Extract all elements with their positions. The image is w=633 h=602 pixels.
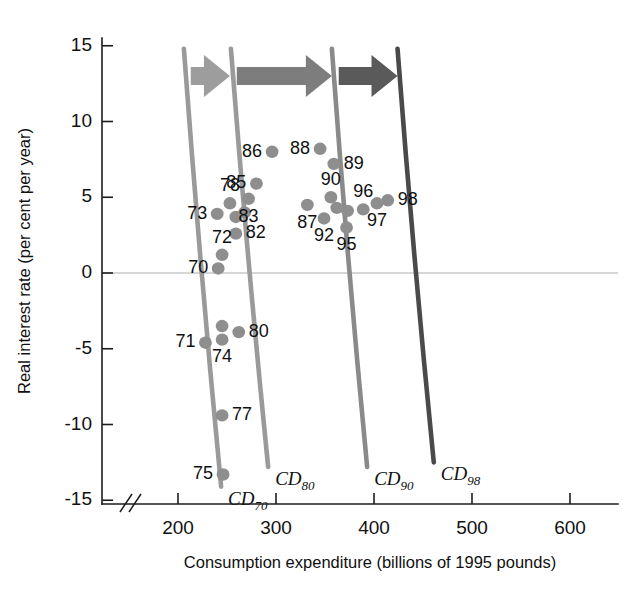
x-tick-label-600: 600 [554,517,586,538]
point-label-70: 70 [188,257,208,277]
point-label-74: 74 [212,346,232,366]
curve-cd90 [332,49,367,467]
data-point-75 [217,468,230,480]
y-tick-label-0: 0 [81,261,92,282]
data-point [341,205,354,217]
arrow-shift-90-to-98 [339,55,398,97]
chart-canvas: 7072737882838586888990879295969798717480… [0,0,633,602]
data-point-70 [212,262,225,274]
point-label-80: 80 [249,321,269,341]
point-label-72: 72 [212,227,232,247]
curve-label-cd80: CD80 [275,468,315,493]
x-tick-label-200: 200 [162,517,194,538]
point-label-98: 98 [398,189,418,209]
data-point-73 [211,208,224,220]
data-point-88 [314,143,327,155]
y-tick-label-5: 5 [81,185,92,206]
curve-cd98 [398,49,434,463]
data-point-90 [324,191,337,203]
chart-figure: 7072737882838586888990879295969798717480… [0,0,633,602]
x-tick-label-300: 300 [260,517,292,538]
point-label-90: 90 [321,169,341,189]
data-point-77 [216,409,229,421]
point-label-73: 73 [187,203,207,223]
data-point [330,202,343,214]
y-tick-label--5: -5 [75,337,92,358]
data-point-72 [216,249,229,261]
curve-labels-group: CD70CD80CD90CD98 [228,463,481,512]
point-label-97: 97 [367,210,387,230]
data-point-83 [242,193,255,205]
point-label-92: 92 [314,225,334,245]
data-point-92 [318,212,331,224]
data-point-87 [301,199,314,211]
y-tick-label-10: 10 [71,110,92,131]
y-axis-title: Real interest rate (per cent per year) [15,128,33,394]
data-point-95 [340,221,353,233]
y-tick-label--15: -15 [65,488,92,509]
curve-label-cd70: CD70 [228,488,268,513]
data-point-labels-group: 7072737882838586888990879295969798717480… [175,138,417,484]
point-label-95: 95 [337,234,357,254]
point-label-71: 71 [175,331,195,351]
y-tick-label-15: 15 [71,34,92,55]
tick-labels-group: 151050-5-10-15200300400500600 [65,34,586,538]
data-point-85 [250,177,263,189]
x-axis-title: Consumption expenditure (billions of 199… [184,553,556,571]
data-point-71 [199,336,212,348]
x-tick-label-500: 500 [456,517,488,538]
x-tick-label-400: 400 [358,517,390,538]
point-label-83: 83 [239,206,259,226]
point-label-86: 86 [242,141,262,161]
data-point-80 [232,326,245,338]
curve-label-cd98: CD98 [441,463,481,488]
point-label-85: 85 [226,172,246,192]
data-point-74 [216,333,229,345]
point-label-75: 75 [193,463,213,483]
data-point-86 [266,146,279,158]
y-tick-label--10: -10 [65,413,92,434]
data-point [216,320,229,332]
data-point-78 [224,197,237,209]
arrow-shift-70-to-80 [191,55,230,97]
shift-arrows-group [191,55,398,97]
point-label-89: 89 [344,153,364,173]
curve-label-cd90: CD90 [374,468,414,493]
arrow-shift-80-to-90 [237,55,332,97]
axes-group [102,38,618,512]
data-point-98 [381,194,394,206]
point-label-77: 77 [232,404,252,424]
point-label-88: 88 [290,138,310,158]
point-label-96: 96 [353,181,373,201]
